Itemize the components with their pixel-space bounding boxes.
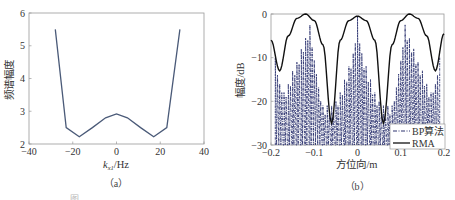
- y-tick-label: 2: [20, 139, 25, 150]
- panel-a-x-axis-label: kx1/Hz: [103, 159, 129, 171]
- y-tick-label: −30: [251, 140, 267, 151]
- y-tick-label: 3: [20, 106, 25, 117]
- y-tick-label: 4: [20, 73, 25, 84]
- panel-b-x-axis-label: 方位向/m: [336, 158, 377, 170]
- y-tick-label: −20: [251, 96, 267, 107]
- figure: −40−200204023456 频谱幅度 kx1/Hz （a） −0.2−0.…: [0, 0, 455, 200]
- legend-bp-label: BP算法: [412, 125, 444, 137]
- panel-a-ticks: −40−200204023456: [20, 8, 209, 158]
- x-tick-label: −0.1: [305, 147, 323, 158]
- y-tick-label: 5: [20, 40, 25, 51]
- figure-footer: 图: [70, 194, 79, 200]
- x-tick-label: 40: [199, 146, 209, 157]
- panel-b-legend: BP算法 RMA: [390, 124, 445, 149]
- panel-a-y-axis-label: 频谱幅度: [3, 59, 15, 100]
- panel-a-spectrum-line: [55, 29, 180, 136]
- x-tick-label: 20: [155, 146, 165, 157]
- y-tick-label: 0: [262, 9, 267, 20]
- panel-b-caption: （b）: [345, 181, 370, 192]
- x-label-unit: /Hz: [114, 159, 130, 170]
- panel-b-y-axis-label: 幅度/dB: [234, 62, 246, 97]
- panel-a-chart: −40−200204023456 频谱幅度 kx1/Hz （a）: [3, 8, 209, 190]
- x-tick-label: 0: [114, 146, 119, 157]
- panel-a-caption: （a）: [104, 178, 128, 189]
- x-tick-label: −20: [65, 146, 81, 157]
- x-tick-label: 0: [355, 147, 360, 158]
- panel-b-chart: −0.2−0.100.10.20−10−20−30 幅度/dB 方位向/m （b…: [234, 9, 450, 193]
- legend-rma-label: RMA: [412, 138, 436, 149]
- y-tick-label: −10: [251, 52, 267, 63]
- y-tick-label: 6: [20, 8, 25, 19]
- x-label-subscript: x1: [107, 164, 114, 171]
